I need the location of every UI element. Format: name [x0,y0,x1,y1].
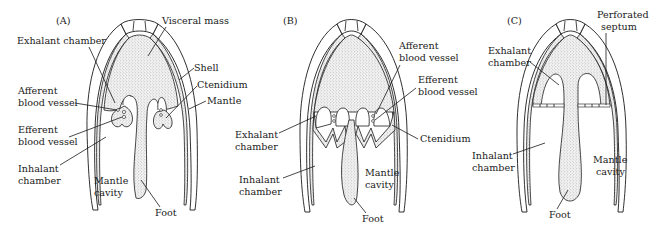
exhalant-lobe-2 [336,108,349,126]
label-mantle-cavity-2: cavity [94,187,123,198]
label-exhalant-2: chamber [488,57,531,68]
panel-b-tag: (B) [283,15,298,26]
label-foot: Foot [362,213,384,224]
diagram-canvas: (A) Visceral mass Exhalant chamber Shell [0,0,658,229]
hinge [337,20,366,35]
bivalve-gill-diagram: (A) Visceral mass Exhalant chamber Shell [0,0,658,229]
hinge [556,20,585,35]
label-ctenidium: Ctenidium [197,79,248,90]
label-efferent-1: Efferent [418,74,458,85]
label-exhalant-chamber: Exhalant chamber [17,35,106,46]
label-afferent-1: Afferent [17,85,58,96]
label-efferent-2: blood vessel [18,136,78,147]
panel-c-tag: (C) [507,15,522,26]
label-mantle-cavity-2: cavity [596,166,625,177]
label-mantle-cavity-1: Mantle [94,175,129,186]
panel-c: (C) Perforated septum Exhalant chamber I… [472,9,649,220]
label-exhalant-1: Exhalant [488,45,531,56]
label-afferent-2: blood vessel [18,97,78,108]
label-visceral-mass: Visceral mass [161,15,229,26]
label-mantle-cavity-1: Mantle [365,167,400,178]
label-shell: Shell [194,62,219,73]
label-inhalant-1: Inhalant [18,163,59,174]
hinge [121,20,158,35]
panel-a: (A) Visceral mass Exhalant chamber Shell [17,15,248,218]
label-exhalant-2: chamber [235,141,278,152]
label-perforated-2: septum [601,21,637,32]
label-inhalant-1: Inhalant [239,174,280,185]
label-inhalant-2: chamber [239,186,282,197]
label-exhalant-1: Exhalant [235,129,278,140]
panel-a-tag: (A) [56,15,70,26]
label-foot: Foot [155,207,177,218]
label-mantle-cavity-2: cavity [365,179,394,190]
label-foot: Foot [549,209,571,220]
label-perforated-1: Perforated [597,9,649,20]
label-efferent-1: Efferent [18,124,58,135]
label-inhalant-2: chamber [472,162,515,173]
exhalant-lobe-3 [356,108,369,126]
label-efferent-2: blood vessel [418,86,478,97]
label-inhalant-2: chamber [18,175,61,186]
label-mantle-cavity-1: Mantle [593,154,628,165]
label-inhalant-1: Inhalant [472,150,513,161]
label-afferent-2: blood vessel [399,52,459,63]
ctenidium-right [153,110,172,129]
label-afferent-1: Afferent [398,40,439,51]
panel-b: (B) Afferent blood vessel Efferent blood… [235,15,478,224]
label-ctenidium: Ctenidium [420,133,471,144]
label-mantle: Mantle [207,95,242,106]
